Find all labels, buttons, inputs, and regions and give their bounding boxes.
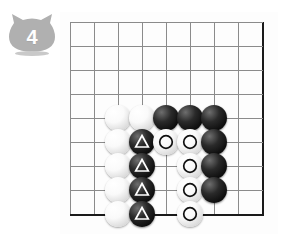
triangle-marker-icon <box>129 129 155 155</box>
circle-marker-icon <box>177 177 203 203</box>
stone-white-circle[interactable] <box>177 177 203 203</box>
stone-white-circle[interactable] <box>177 201 203 227</box>
stone-black-triangle[interactable] <box>129 129 155 155</box>
circle-marker-icon <box>177 129 203 155</box>
stone-white[interactable] <box>105 105 131 131</box>
stone-black[interactable] <box>177 105 203 131</box>
go-problem-panel: 4 <box>0 0 289 248</box>
stone-black[interactable] <box>201 105 227 131</box>
stone-white[interactable] <box>105 201 131 227</box>
stone-white[interactable] <box>105 129 131 155</box>
stone-white[interactable] <box>105 177 131 203</box>
stone-black[interactable] <box>201 153 227 179</box>
problem-number-badge: 4 <box>8 13 56 57</box>
stone-black[interactable] <box>201 177 227 203</box>
triangle-marker-icon <box>129 177 155 203</box>
circle-marker-icon <box>177 153 203 179</box>
stone-white-circle[interactable] <box>153 129 179 155</box>
grid-line-horizontal <box>70 22 263 23</box>
stone-black-triangle[interactable] <box>129 153 155 179</box>
triangle-marker-icon <box>129 153 155 179</box>
board-edge-right <box>262 22 264 216</box>
stone-black[interactable] <box>153 105 179 131</box>
board-edge-bottom <box>70 214 264 216</box>
circle-marker-icon <box>153 129 179 155</box>
go-board[interactable] <box>60 12 278 234</box>
stone-white-circle[interactable] <box>177 129 203 155</box>
stone-black[interactable] <box>201 129 227 155</box>
grid-line-horizontal <box>70 46 263 47</box>
circle-marker-icon <box>177 201 203 227</box>
stone-white-circle[interactable] <box>177 153 203 179</box>
triangle-marker-icon <box>129 201 155 227</box>
stone-black-triangle[interactable] <box>129 201 155 227</box>
grid-line-horizontal <box>70 70 263 71</box>
stone-white[interactable] <box>129 105 155 131</box>
grid-line-horizontal <box>70 190 263 191</box>
stone-white[interactable] <box>105 153 131 179</box>
grid-line-horizontal <box>70 94 263 95</box>
badge-number-label: 4 <box>8 13 56 57</box>
stone-black-triangle[interactable] <box>129 177 155 203</box>
grid-line-horizontal <box>70 166 263 167</box>
